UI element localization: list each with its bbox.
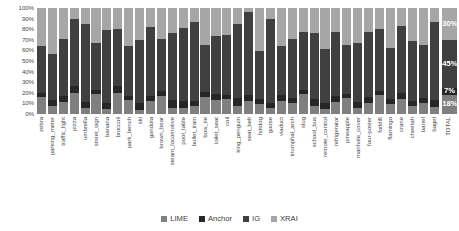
bar-segment-ig	[113, 29, 122, 86]
legend-item[interactable]: Anchor	[199, 215, 232, 223]
bar-segment-xrai	[299, 8, 308, 32]
bar-segment-xrai	[102, 8, 111, 30]
bar-segment-anchor	[233, 98, 242, 105]
bar-segment-ig	[124, 46, 133, 96]
bar-segment-ig	[310, 33, 319, 99]
x-axis-label: pineapple	[344, 117, 350, 143]
x-axis-label-cell: hotdog	[254, 116, 265, 186]
bar-column	[58, 8, 69, 114]
x-axis-label-cell: coil	[221, 116, 232, 186]
bar-segment-ig	[266, 19, 275, 104]
x-axis-label: hotdog	[257, 117, 263, 135]
bar-segment-anchor	[168, 100, 177, 107]
bar-segment-xrai	[408, 8, 417, 41]
bar-segment-lime	[364, 103, 373, 114]
bar-segment-ig	[430, 22, 439, 100]
x-axis-label-cell: refrigerator	[330, 116, 341, 186]
x-axis-label-cell: goose	[265, 116, 276, 186]
bar-segment-xrai	[255, 8, 264, 51]
bar-segment-ig	[342, 45, 351, 94]
bar-segment-lime	[299, 94, 308, 114]
bar-segment-lime	[320, 109, 329, 114]
x-axis-label: parking_meter	[49, 117, 55, 155]
bar-segment-ig	[81, 24, 90, 102]
bar-segment-xrai	[168, 8, 177, 33]
legend-swatch-icon	[243, 216, 249, 222]
bar-segment-xrai	[157, 8, 166, 39]
x-axis-label: bullet_train	[191, 117, 197, 146]
x-axis-label-cell: triumphal_arch	[287, 116, 298, 186]
y-axis-tick: 60%	[22, 47, 34, 53]
bar-column	[47, 8, 58, 114]
bar-column	[287, 8, 298, 114]
bar-column	[200, 8, 211, 114]
x-axis-label-cell: four-poster	[363, 116, 374, 186]
bar-segment-lime	[124, 100, 133, 114]
bar-column	[101, 8, 112, 114]
bar-segment-lime	[179, 108, 188, 114]
bar-segment-lime	[430, 107, 439, 114]
x-axis-label-cell: viaduct	[276, 116, 287, 186]
bar-segment-lime	[168, 108, 177, 114]
y-axis-tick: 30%	[22, 79, 34, 85]
x-axis-label-cell: remote_control	[320, 116, 331, 186]
x-axis-label: flamingo	[387, 117, 393, 140]
bar-segment-lime	[70, 93, 79, 114]
bar-column	[221, 8, 232, 114]
segment-value-label: 7%	[442, 87, 457, 95]
bar-segment-ig	[386, 48, 395, 99]
bar-column	[91, 8, 102, 114]
x-axis-label: traffic_light	[60, 117, 66, 146]
bar-segment-xrai	[91, 8, 100, 43]
bar-segment-ig	[91, 43, 100, 90]
segment-value-label: 45%	[442, 60, 457, 68]
bar-segment-lime	[146, 101, 155, 114]
bar-column	[178, 8, 189, 114]
x-axis-label-cell: steam_locomotive	[167, 116, 178, 186]
bar-segment-xrai	[375, 8, 384, 29]
y-axis-tick: 70%	[22, 37, 34, 43]
bar-segment-xrai	[310, 8, 319, 33]
total-bar-column: 30%45%7%18%	[440, 8, 457, 114]
x-axis-label-cell: crane	[396, 116, 407, 186]
bar-segment-lime	[353, 108, 362, 114]
x-axis-label: forklift	[377, 117, 383, 133]
bar-column	[330, 8, 341, 114]
legend-item[interactable]: IG	[243, 215, 260, 223]
bar-segment-xrai	[386, 8, 395, 48]
bar-column	[276, 8, 287, 114]
x-axis-label-cell: pool_table	[178, 116, 189, 186]
x-axis-label-cell: traffic_light	[58, 116, 69, 186]
bar-segment-xrai	[59, 8, 68, 39]
x-axis-label: toilet_seat	[213, 117, 219, 144]
bar-column	[385, 8, 396, 114]
bar-segment-lime	[48, 106, 57, 114]
stacked-bar-chart: 100%90%80%70%60%50%40%30%20%10%0% 30%45%…	[0, 0, 459, 231]
bar-segment-lime	[408, 106, 417, 114]
x-axis-label-cell: pizza	[69, 116, 80, 186]
legend-item[interactable]: XRAI	[271, 215, 298, 223]
x-axis-label-cell: toilet_seat	[211, 116, 222, 186]
y-axis-tick: 90%	[22, 15, 34, 21]
x-axis-label-cell: barrel	[418, 116, 429, 186]
bar-segment-ig	[37, 46, 46, 93]
bar-segment-lime	[102, 109, 111, 114]
bar-segment-lime	[277, 101, 286, 114]
bar-segment-ig	[70, 19, 79, 87]
x-axis-label: coil	[224, 117, 230, 126]
bar-segment-ig	[408, 41, 417, 101]
bar-column	[156, 8, 167, 114]
x-axis-label: zebra	[38, 117, 44, 132]
x-axis-label: gondola	[147, 117, 153, 138]
x-axis-label-cell: zebra	[36, 116, 47, 186]
legend-item[interactable]: LIME	[161, 215, 188, 223]
y-axis-tick: 0%	[25, 111, 34, 117]
bar-segment-lime	[113, 93, 122, 114]
x-axis-label: viaduct	[278, 117, 284, 136]
x-axis-label: steam_locomotive	[169, 117, 175, 165]
bar-segment-lime	[255, 104, 264, 114]
bar-segment-lime	[233, 106, 242, 114]
bar-segment-lime	[244, 101, 253, 114]
bar-segment-ig	[320, 49, 329, 103]
bar-segment-lime: 18%	[442, 95, 457, 114]
